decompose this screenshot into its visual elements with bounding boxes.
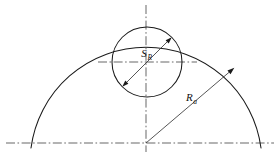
drawing-svg: SR Ra: [0, 0, 279, 157]
outer-radius-subscript: a: [193, 97, 197, 106]
sphere-radius-symbol: S: [141, 47, 147, 59]
sphere-radius-subscript: R: [146, 53, 152, 62]
sphere-radius-label: SR: [141, 47, 152, 62]
sphere-radius-leader-line-lower: [127, 62, 147, 82]
outer-radius-label: Ra: [185, 91, 197, 106]
technical-drawing-canvas: SR Ra: [0, 0, 279, 157]
outer-radius-leader-group: [146, 68, 234, 143]
outer-radius-symbol: R: [185, 91, 193, 103]
outer-radius-leader-line: [146, 72, 229, 143]
